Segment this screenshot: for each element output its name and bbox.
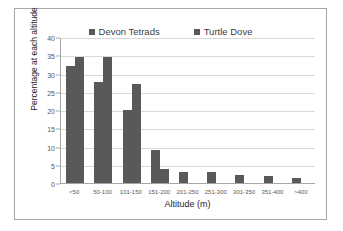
x-axis-tick-label: 50-100 bbox=[88, 186, 116, 198]
x-axis-ticks: <5050-100101-150151-200201-250251-300301… bbox=[60, 186, 315, 198]
bar-group bbox=[61, 38, 89, 183]
x-axis-tick-label: <50 bbox=[60, 186, 88, 198]
y-axis-tick-label: 20 bbox=[47, 108, 55, 115]
bar[interactable] bbox=[103, 57, 112, 183]
x-axis-tick-label: 251-300 bbox=[202, 186, 230, 198]
bar-group bbox=[259, 38, 287, 183]
y-axis-tick-label: 35 bbox=[47, 53, 55, 60]
bar-group bbox=[230, 38, 258, 183]
bar[interactable] bbox=[207, 172, 216, 183]
legend-swatch-icon bbox=[194, 29, 200, 35]
legend-label: Turtle Dove bbox=[204, 27, 253, 37]
plot-area bbox=[60, 38, 315, 184]
bar-group bbox=[174, 38, 202, 183]
y-axis-tick-label: 5 bbox=[51, 162, 55, 169]
bar[interactable] bbox=[160, 169, 169, 183]
bar[interactable] bbox=[66, 66, 75, 183]
legend-label: Devon Tetrads bbox=[99, 27, 160, 37]
y-axis-tick-label: 25 bbox=[47, 89, 55, 96]
bar[interactable] bbox=[94, 82, 103, 183]
bar-group bbox=[202, 38, 230, 183]
bar[interactable] bbox=[151, 150, 160, 183]
legend-swatch-icon bbox=[89, 29, 95, 35]
x-axis-tick-label: 101-150 bbox=[117, 186, 145, 198]
x-axis-tick-label: >400 bbox=[287, 186, 315, 198]
bar-group bbox=[117, 38, 145, 183]
y-axis-tick-label: 0 bbox=[51, 181, 55, 188]
y-axis-tick-label: 10 bbox=[47, 144, 55, 151]
legend-entry-turtle-dove[interactable]: Turtle Dove bbox=[194, 27, 253, 37]
chart-legend: Devon Tetrads Turtle Dove bbox=[15, 27, 326, 37]
bar[interactable] bbox=[292, 178, 301, 183]
y-axis-ticks: 0510152025303540 bbox=[15, 38, 60, 184]
chart-frame: Devon Tetrads Turtle Dove Percentage at … bbox=[14, 8, 327, 220]
y-axis-tick-label: 40 bbox=[47, 35, 55, 42]
legend-entry-devon-tetrads[interactable]: Devon Tetrads bbox=[89, 27, 160, 37]
x-axis-tick-label: 351-400 bbox=[258, 186, 286, 198]
bar[interactable] bbox=[132, 84, 141, 183]
bar[interactable] bbox=[75, 57, 84, 183]
bar[interactable] bbox=[235, 175, 244, 183]
bar[interactable] bbox=[123, 110, 132, 183]
bar-group bbox=[287, 38, 315, 183]
bar-group bbox=[146, 38, 174, 183]
bar-group bbox=[89, 38, 117, 183]
x-axis-title: Altitude (m) bbox=[60, 199, 315, 209]
x-axis-tick-label: 201-250 bbox=[173, 186, 201, 198]
bar[interactable] bbox=[179, 172, 188, 183]
bar-series-container bbox=[61, 38, 315, 183]
y-axis-tick-label: 15 bbox=[47, 126, 55, 133]
x-axis-tick-label: 301-350 bbox=[230, 186, 258, 198]
y-axis-tick-label: 30 bbox=[47, 71, 55, 78]
bar[interactable] bbox=[264, 176, 273, 183]
x-axis-tick-label: 151-200 bbox=[145, 186, 173, 198]
